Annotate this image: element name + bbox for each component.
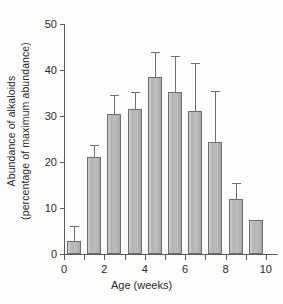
error-bar-line	[135, 92, 136, 109]
y-tick-label: 20	[45, 156, 57, 168]
bar	[128, 109, 142, 254]
x-tick-label: 0	[61, 263, 67, 275]
x-tick	[165, 255, 166, 260]
error-bar-line	[236, 183, 237, 200]
error-bar-cap	[211, 91, 220, 92]
y-tick-label: 50	[45, 18, 57, 30]
y-tick-label: 0	[51, 248, 57, 260]
x-axis-title: Age (weeks)	[0, 279, 283, 291]
y-tick	[60, 24, 64, 25]
x-tick-label: 4	[142, 263, 148, 275]
error-bar-line	[94, 145, 95, 158]
x-tick	[64, 255, 65, 260]
error-bar-cap	[232, 183, 241, 184]
error-bar-line	[155, 52, 156, 77]
x-tick	[104, 255, 105, 260]
plot-area: 01020304050 0246810	[64, 24, 278, 254]
y-tick	[60, 208, 64, 209]
x-tick	[226, 255, 227, 260]
bar	[208, 142, 222, 254]
bar	[148, 77, 162, 254]
error-bar-cap	[70, 226, 79, 227]
y-axis-title-line2: (percentage of maximum abundance)	[18, 42, 32, 220]
x-tick	[185, 255, 186, 260]
y-tick	[60, 162, 64, 163]
y-axis-spine	[64, 24, 65, 254]
error-bar-cap	[131, 92, 140, 93]
y-tick-label: 40	[45, 64, 57, 76]
y-axis-title-line1: Abundance of alkaloids	[4, 42, 18, 220]
bar	[107, 114, 121, 254]
y-axis-title: Abundance of alkaloids (percentage of ma…	[0, 0, 36, 262]
x-tick	[84, 255, 85, 260]
x-tick-label: 6	[182, 263, 188, 275]
x-tick-label: 10	[260, 263, 272, 275]
y-tick-label: 10	[45, 202, 57, 214]
bar	[168, 92, 182, 254]
x-tick	[266, 255, 267, 260]
x-tick	[205, 255, 206, 260]
error-bar-cap	[110, 95, 119, 96]
error-bar-line	[175, 56, 176, 92]
error-bar-cap	[151, 52, 160, 53]
y-tick	[60, 116, 64, 117]
x-tick	[145, 255, 146, 260]
error-bar-line	[114, 95, 115, 114]
bar	[67, 241, 81, 254]
error-bar-line	[195, 63, 196, 111]
error-bar-cap	[90, 145, 99, 146]
error-bar-line	[74, 226, 75, 241]
x-tick	[246, 255, 247, 260]
bar-chart-figure: Abundance of alkaloids (percentage of ma…	[0, 0, 283, 304]
x-tick-label: 8	[222, 263, 228, 275]
x-tick-label: 2	[101, 263, 107, 275]
bar	[229, 199, 243, 254]
error-bar-cap	[191, 63, 200, 64]
y-tick-label: 30	[45, 110, 57, 122]
x-tick	[125, 255, 126, 260]
bar	[87, 157, 101, 254]
bar	[249, 220, 263, 255]
error-bar-cap	[171, 56, 180, 57]
error-bar-line	[215, 91, 216, 142]
y-tick	[60, 70, 64, 71]
bar	[188, 111, 202, 254]
